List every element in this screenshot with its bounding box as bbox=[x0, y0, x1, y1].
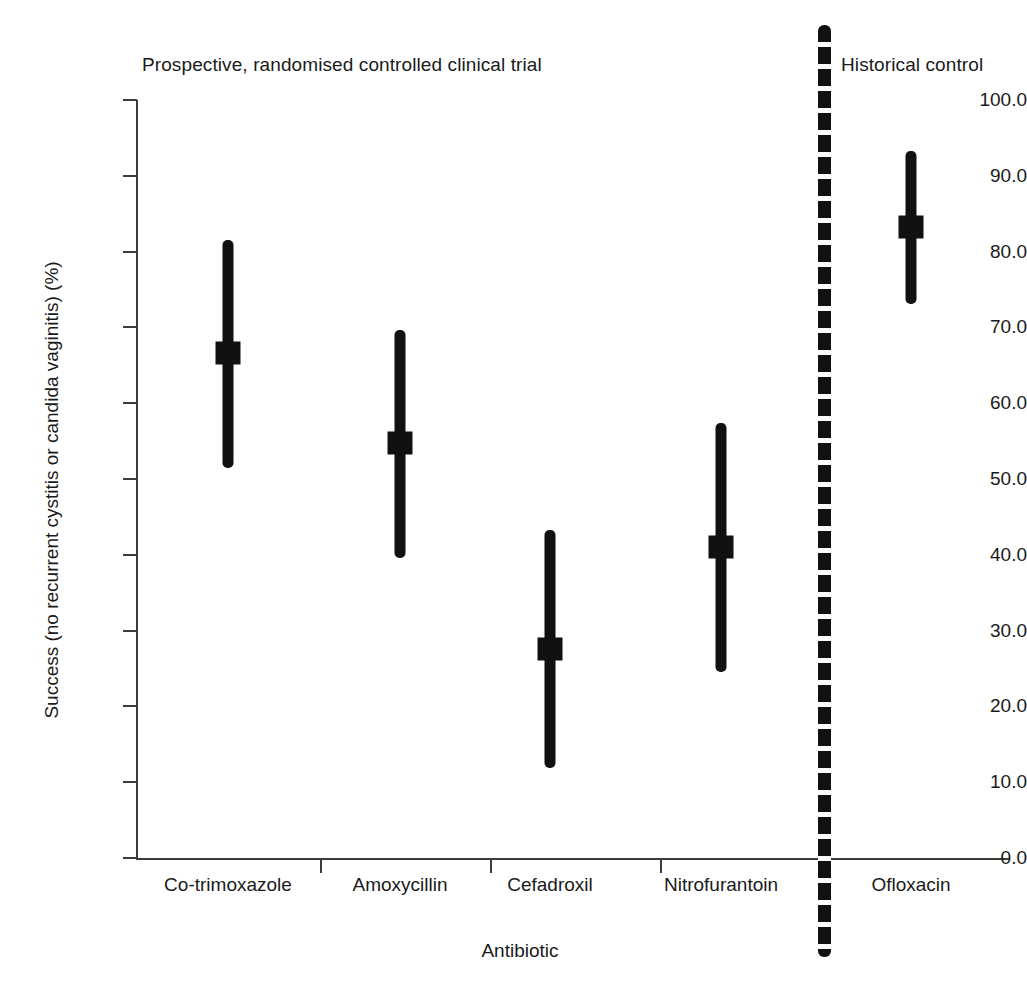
y-axis-tick-label: 0.0 bbox=[919, 847, 1027, 869]
y-axis-tick-mark bbox=[123, 554, 137, 556]
data-point-marker bbox=[216, 342, 241, 365]
y-axis-tick-mark bbox=[123, 630, 137, 632]
y-axis-tick-label: 70.0 bbox=[919, 316, 1027, 338]
y-axis-tick-mark bbox=[123, 251, 137, 253]
y-axis-tick-label: 10.0 bbox=[919, 771, 1027, 793]
y-axis-tick-mark bbox=[123, 99, 137, 101]
x-axis-category-label: Ofloxacin bbox=[871, 874, 950, 896]
y-axis-tick-label: 30.0 bbox=[919, 620, 1027, 642]
y-axis-tick-label: 50.0 bbox=[919, 468, 1027, 490]
y-axis-tick-mark bbox=[123, 326, 137, 328]
y-axis-tick-mark bbox=[123, 402, 137, 404]
x-axis-tick-mark bbox=[320, 859, 322, 873]
y-axis-tick-label: 40.0 bbox=[919, 544, 1027, 566]
panel-title-historical-control: Historical control bbox=[841, 54, 983, 76]
y-axis-tick-mark bbox=[123, 781, 137, 783]
x-axis-title: Antibiotic bbox=[440, 940, 600, 962]
y-axis-tick-mark bbox=[123, 857, 137, 859]
data-point-marker bbox=[388, 432, 413, 455]
x-axis-category-label: Amoxycillin bbox=[352, 874, 447, 896]
y-axis-tick-label: 80.0 bbox=[919, 241, 1027, 263]
y-axis-tick-label: 60.0 bbox=[919, 392, 1027, 414]
y-axis-tick-mark bbox=[123, 478, 137, 480]
x-axis-category-label: Nitrofurantoin bbox=[664, 874, 778, 896]
x-axis-line bbox=[136, 858, 1010, 860]
y-axis-title: Success (no recurrent cystitis or candid… bbox=[41, 180, 63, 800]
x-axis-category-label: Co-trimoxazole bbox=[164, 874, 292, 896]
x-axis-tick-mark bbox=[660, 859, 662, 873]
y-axis-tick-label: 100.0 bbox=[919, 89, 1027, 111]
y-axis-tick-mark bbox=[123, 175, 137, 177]
data-point-marker bbox=[899, 215, 924, 238]
panel-title-clinical-trial: Prospective, randomised controlled clini… bbox=[142, 54, 542, 76]
data-point-marker bbox=[709, 536, 734, 559]
y-axis-tick-label: 20.0 bbox=[919, 695, 1027, 717]
y-axis-tick-label: 90.0 bbox=[919, 165, 1027, 187]
x-axis-category-label: Cefadroxil bbox=[507, 874, 593, 896]
y-axis-tick-mark bbox=[123, 705, 137, 707]
panel-divider-dotted-line bbox=[818, 25, 831, 957]
x-axis-tick-mark bbox=[490, 859, 492, 873]
data-point-marker bbox=[538, 637, 563, 660]
figure-canvas: Prospective, randomised controlled clini… bbox=[0, 0, 1027, 998]
